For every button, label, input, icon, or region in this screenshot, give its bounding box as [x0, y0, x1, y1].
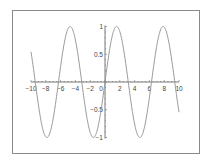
x-tick-label: −2 — [86, 85, 94, 92]
y-tick-label: −1 — [96, 134, 104, 141]
x-tick-label: −4 — [72, 85, 80, 92]
y-tick-label: 1 — [99, 23, 103, 30]
x-tick-label: 2 — [118, 85, 122, 92]
x-tick-label: 0 — [99, 85, 103, 92]
y-tick-label: 0.5 — [94, 51, 103, 58]
x-tick-label: 10 — [175, 85, 183, 92]
x-tick-label: 4 — [133, 85, 137, 92]
x-tick-label: −10 — [25, 85, 36, 92]
x-tick-label: −8 — [42, 85, 50, 92]
x-tick-label: 8 — [162, 85, 166, 92]
sine-plot: −10−8−6−4−2024681010.5−0.5−1 — [0, 0, 209, 159]
